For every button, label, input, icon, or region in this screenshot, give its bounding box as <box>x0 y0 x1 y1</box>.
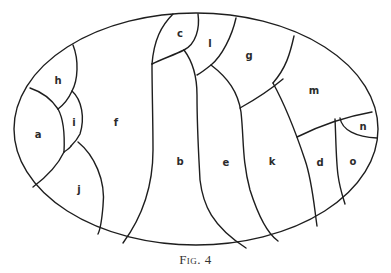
region-label-b: b <box>176 156 183 167</box>
boundary-b-e <box>184 50 246 248</box>
caption-number: 4 <box>205 252 212 267</box>
boundary-a-j-lower <box>33 152 64 187</box>
boundary-k-d <box>273 83 317 226</box>
region-label-m: m <box>309 85 319 96</box>
region-label-k: k <box>269 156 276 167</box>
region-label-c: c <box>177 28 183 39</box>
boundary-l-g <box>197 18 236 75</box>
boundary-c-b <box>152 50 184 64</box>
region-map-diagram: a b c d e f g h i j k l m n o <box>0 0 391 273</box>
boundary-c-l <box>184 14 198 50</box>
boundary-d-o <box>335 119 345 204</box>
caption-prefix: Fig. <box>179 252 201 267</box>
region-label-h: h <box>54 75 61 86</box>
boundary-j-f <box>78 142 103 234</box>
region-label-j: j <box>76 184 80 195</box>
boundary-g-m <box>273 36 294 83</box>
boundary-h-a <box>30 88 58 109</box>
figure-caption: Fig. 4 <box>0 252 391 268</box>
boundary-a-i <box>58 109 64 152</box>
boundary-b-f <box>123 64 153 243</box>
boundary-g-k <box>240 79 283 108</box>
region-label-l: l <box>208 38 211 49</box>
boundary-a-j <box>64 146 71 152</box>
region-label-o: o <box>350 156 357 167</box>
region-label-n: n <box>359 121 366 132</box>
region-label-g: g <box>245 50 252 61</box>
outer-ellipse <box>14 13 378 245</box>
region-label-d: d <box>316 157 323 168</box>
region-label-i: i <box>72 117 75 128</box>
region-label-a: a <box>35 129 42 140</box>
region-label-e: e <box>223 157 230 168</box>
region-label-f: f <box>114 117 119 128</box>
